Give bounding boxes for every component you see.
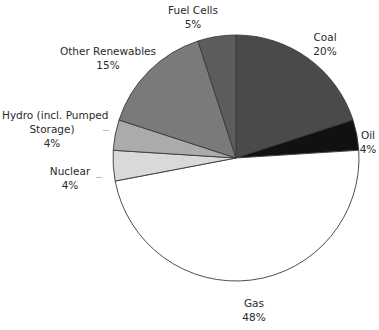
label-nuclear-name: Nuclear [46,164,94,178]
label-oil-pct: 4% [356,142,379,156]
hydro-leader-tick [103,130,109,131]
label-hydro-pct: 4% [2,136,102,150]
label-oil-name: Oil [356,128,379,142]
label-gas-name: Gas [236,296,272,310]
label-fuel-cells: Fuel Cells 5% [158,3,228,31]
label-gas-pct: 48% [236,310,272,324]
label-fuel-cells-pct: 5% [158,17,228,31]
label-nuclear-pct: 4% [46,178,94,192]
label-other-renewables: Other Renewables 15% [58,44,158,72]
label-nuclear: Nuclear 4% [46,164,94,192]
label-hydro-name-line1: Hydro (incl. Pumped [2,108,102,122]
label-fuel-cells-name: Fuel Cells [158,3,228,17]
label-coal-pct: 20% [305,44,345,58]
label-hydro: Hydro (incl. Pumped Storage) 4% [2,108,102,150]
nuclear-leader-tick [96,177,102,178]
label-other-renewables-name: Other Renewables [58,44,158,58]
label-oil: Oil 4% [356,128,379,156]
label-hydro-name-line2: Storage) [2,122,102,136]
label-gas: Gas 48% [236,296,272,324]
label-coal-name: Coal [305,30,345,44]
label-other-renewables-pct: 15% [58,58,158,72]
label-coal: Coal 20% [305,30,345,58]
